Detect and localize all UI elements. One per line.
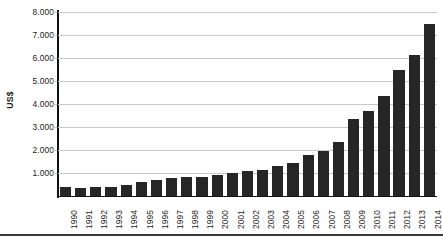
gridline bbox=[58, 35, 437, 36]
x-axis-tick-label: 1998 bbox=[190, 210, 200, 229]
bar bbox=[105, 187, 116, 196]
x-axis-tick-label: 2008 bbox=[342, 210, 352, 229]
y-axis-tick-label: 2.000 bbox=[10, 145, 54, 155]
x-axis-tick-label: 1997 bbox=[175, 210, 185, 229]
y-axis-tick-label: 4.000 bbox=[10, 99, 54, 109]
bar bbox=[348, 119, 359, 196]
bar bbox=[227, 173, 238, 196]
y-axis-tick-mark bbox=[53, 12, 57, 13]
y-axis-tick-mark bbox=[53, 150, 57, 151]
bar bbox=[121, 185, 132, 197]
x-axis-tick-label: 2005 bbox=[296, 210, 306, 229]
x-axis-tick-label: 2012 bbox=[402, 210, 412, 229]
y-axis-tick-label: 3.000 bbox=[10, 122, 54, 132]
x-axis-tick-label: 1999 bbox=[205, 210, 215, 229]
bar bbox=[303, 155, 314, 196]
x-axis-tick-label: 2007 bbox=[327, 210, 337, 229]
y-axis-tick-mark bbox=[53, 104, 57, 105]
bar-chart-figure: 1.0002.0003.0004.0005.0006.0007.0008.000… bbox=[0, 0, 443, 247]
gridline bbox=[58, 12, 437, 13]
bar bbox=[287, 163, 298, 196]
y-axis-tick-label: 1.000 bbox=[10, 168, 54, 178]
gridline bbox=[58, 81, 437, 82]
gridline bbox=[58, 58, 437, 59]
x-axis-tick-label: 2009 bbox=[357, 210, 367, 229]
y-axis-tick-mark bbox=[53, 35, 57, 36]
footer-divider bbox=[0, 234, 443, 236]
bar bbox=[333, 142, 344, 196]
y-axis-tick-mark bbox=[53, 58, 57, 59]
x-axis-tick-label: 2011 bbox=[387, 211, 397, 229]
x-axis-tick-label: 1990 bbox=[69, 210, 79, 229]
y-axis-title: US$ bbox=[5, 80, 15, 120]
bar bbox=[409, 55, 420, 196]
bar bbox=[60, 187, 71, 196]
bar bbox=[363, 111, 374, 196]
bar bbox=[424, 24, 435, 197]
bar bbox=[318, 151, 329, 196]
bar bbox=[393, 70, 404, 197]
bar bbox=[151, 180, 162, 196]
x-axis-tick-label: 2013 bbox=[417, 210, 427, 229]
bar bbox=[272, 166, 283, 196]
x-axis-tick-label: 2003 bbox=[266, 210, 276, 229]
bar bbox=[196, 177, 207, 196]
x-axis-tick-label: 1996 bbox=[160, 210, 170, 229]
y-axis-tick-mark bbox=[53, 127, 57, 128]
bar bbox=[90, 187, 101, 196]
y-axis-tick-label: 7.000 bbox=[10, 30, 54, 40]
bar bbox=[181, 177, 192, 196]
x-axis-tick-label: 2001 bbox=[236, 210, 246, 229]
y-axis-tick-labels: 1.0002.0003.0004.0005.0006.0007.0008.000 bbox=[4, 0, 54, 247]
x-axis-tick-label: 2002 bbox=[251, 210, 261, 229]
bar bbox=[257, 170, 268, 196]
x-axis-tick-label: 1993 bbox=[114, 210, 124, 229]
x-axis-tick-label: 1994 bbox=[129, 210, 139, 229]
bar bbox=[75, 188, 86, 196]
plot-area bbox=[58, 12, 437, 196]
bar bbox=[136, 182, 147, 196]
x-axis-tick-label: 1991 bbox=[84, 210, 94, 229]
bar bbox=[378, 96, 389, 196]
bar bbox=[166, 178, 177, 196]
y-axis-tick-label: 6.000 bbox=[10, 53, 54, 63]
x-axis-tick-labels: 1990199119921993199419951996199719981999… bbox=[58, 197, 437, 231]
x-axis-tick-label: 2006 bbox=[311, 210, 321, 229]
y-axis-tick-label: 5.000 bbox=[10, 76, 54, 86]
x-axis-tick-label: 1992 bbox=[99, 210, 109, 229]
y-axis-tick-label: 8.000 bbox=[10, 7, 54, 17]
y-axis-tick-mark bbox=[53, 81, 57, 82]
x-axis-tick-label: 1995 bbox=[145, 210, 155, 229]
x-axis-tick-label: 2010 bbox=[372, 210, 382, 229]
y-axis-tick-mark bbox=[53, 173, 57, 174]
x-axis-tick-label: 2004 bbox=[281, 210, 291, 229]
bar bbox=[242, 171, 253, 196]
x-axis-tick-label: 2000 bbox=[220, 210, 230, 229]
x-axis-tick-label: 2014 bbox=[433, 210, 443, 229]
bar bbox=[212, 175, 223, 196]
